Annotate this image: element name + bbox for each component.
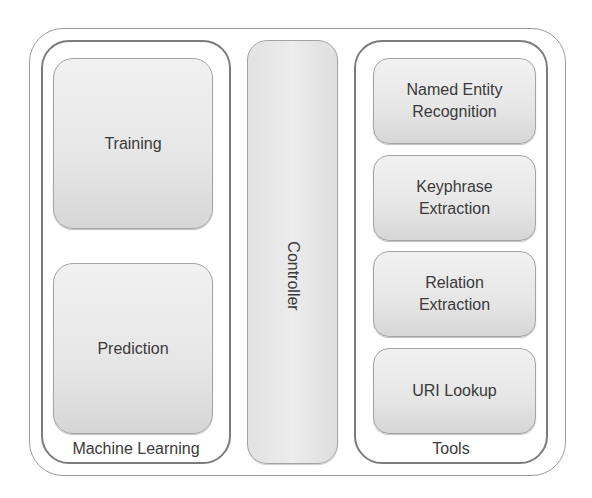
prediction-label: Prediction <box>97 338 168 360</box>
uri-lookup-module: URI Lookup <box>373 348 536 434</box>
tools-label: Tools <box>356 440 546 458</box>
keyphrase-extraction-module: Keyphrase Extraction <box>373 155 536 241</box>
ner-label-line1: Named Entity <box>406 79 502 101</box>
ner-label-line2: Recognition <box>406 101 502 123</box>
keyphrase-label-line2: Extraction <box>416 198 493 220</box>
prediction-module: Prediction <box>53 263 213 434</box>
training-module: Training <box>53 58 213 229</box>
keyphrase-label-line1: Keyphrase <box>416 176 493 198</box>
relation-extraction-module: Relation Extraction <box>373 251 536 337</box>
training-label: Training <box>104 133 161 155</box>
controller-module: Controller <box>247 40 338 464</box>
relation-label-line2: Extraction <box>419 294 490 316</box>
controller-label: Controller <box>284 241 302 310</box>
uri-lookup-label: URI Lookup <box>412 380 497 402</box>
machine-learning-label: Machine Learning <box>43 440 229 458</box>
relation-label-line1: Relation <box>419 272 490 294</box>
named-entity-recognition-module: Named Entity Recognition <box>373 58 536 144</box>
